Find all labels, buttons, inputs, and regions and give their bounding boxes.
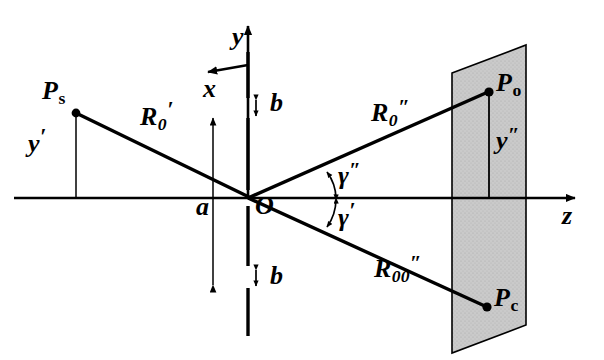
conjugate-point-marker bbox=[482, 302, 491, 311]
gamma-prime-arc bbox=[327, 200, 336, 227]
optics-geometry-figure: Ps y′ R0′ a O b b y x z R0″ R00″ γ″ γ′ P… bbox=[0, 0, 604, 360]
x-axis bbox=[208, 65, 248, 72]
x-axis-label: x bbox=[203, 76, 216, 102]
gamma-double-prime-arc bbox=[327, 172, 336, 198]
reference-ray-label: R00″ bbox=[374, 253, 422, 286]
source-point-label: Ps bbox=[42, 78, 65, 108]
incident-ray-label: R0′ bbox=[140, 99, 173, 134]
z-axis-label: z bbox=[562, 203, 572, 229]
source-height-label: y′ bbox=[28, 126, 46, 157]
gamma-double-prime-label: γ″ bbox=[338, 160, 361, 189]
origin-label: O bbox=[255, 193, 274, 219]
object-point-marker bbox=[484, 87, 493, 96]
reference-ray bbox=[248, 198, 487, 307]
aperture-a-label: a bbox=[196, 194, 209, 220]
image-height-label: y″ bbox=[496, 125, 520, 154]
object-point-label: Po bbox=[496, 70, 521, 100]
conjugate-point-label: Pc bbox=[494, 285, 518, 315]
aperture-b-upper-label: b bbox=[270, 90, 283, 116]
aperture-b-lower-label: b bbox=[270, 263, 283, 289]
diffracted-ray-label: R0″ bbox=[371, 97, 410, 130]
gamma-prime-label: γ′ bbox=[338, 200, 356, 231]
source-point-marker bbox=[72, 109, 81, 118]
y-axis-label: y bbox=[232, 24, 244, 50]
